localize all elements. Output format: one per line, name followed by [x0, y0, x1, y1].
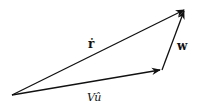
- label-V-u-hat: Vû: [87, 92, 101, 103]
- vector-r-dot: [12, 10, 184, 95]
- vector-V-u-hat: [12, 70, 160, 95]
- label-w: w: [177, 40, 187, 52]
- label-r-dot: ṙ: [88, 38, 94, 50]
